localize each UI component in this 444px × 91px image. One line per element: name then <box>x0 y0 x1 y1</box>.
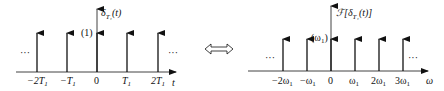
tick-label: −2ω1 <box>272 75 293 88</box>
tick-label: 0 <box>94 75 99 86</box>
impulse-train-fourier-diagram: ··· ··· (1) δT₁(t) t −2T1 −T1 0 T1 2T1 ·… <box>0 0 444 91</box>
right-weight-label: (ω1) <box>311 32 328 45</box>
right-tick-labels: −2ω1 −ω1 0 ω1 2ω1 3ω1 <box>272 75 411 88</box>
tick-label: ω1 <box>349 75 360 88</box>
tick-label: −T1 <box>60 75 76 88</box>
right-ellipsis-right: ··· <box>408 52 418 63</box>
left-ellipsis-left: ··· <box>20 47 30 58</box>
left-weight-label: (1) <box>81 27 93 39</box>
left-plot-time-domain: ··· ··· (1) δT₁(t) t −2T1 −T1 0 T1 2T1 <box>16 7 178 88</box>
right-plot-frequency-domain: ··· ··· (ω1) ℱ[δT₁(t)] ω −2ω1 −ω1 0 ω1 2… <box>248 6 433 88</box>
double-arrow-icon <box>205 44 233 54</box>
tick-label: 2ω1 <box>371 75 387 88</box>
left-ellipsis-right: ··· <box>168 47 178 58</box>
tick-label: −ω1 <box>300 75 316 88</box>
left-plot-title: δT₁(t) <box>101 7 122 21</box>
tick-label: T1 <box>122 75 131 88</box>
tick-label: −2T1 <box>27 75 48 88</box>
left-tick-labels: −2T1 −T1 0 T1 2T1 <box>27 75 165 88</box>
right-plot-title: ℱ[δT₁(t)] <box>336 7 372 21</box>
right-impulses <box>283 39 403 71</box>
left-axis-label-t: t <box>172 77 175 88</box>
left-impulses <box>37 33 158 72</box>
tick-label: 3ω1 <box>395 75 411 88</box>
right-ellipsis-left: ··· <box>265 52 275 63</box>
tick-label: 0 <box>328 75 333 86</box>
tick-label: 2T1 <box>151 75 165 88</box>
right-axis-label-omega: ω <box>426 75 433 86</box>
